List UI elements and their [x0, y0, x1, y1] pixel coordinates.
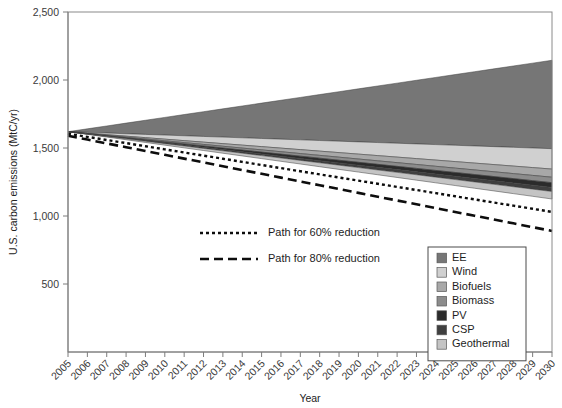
legend-label-pv: PV — [452, 309, 467, 321]
y-tick-label: 2,000 — [33, 74, 59, 86]
x-tick-label: 2005 — [48, 357, 73, 382]
y-tick-label: 1,000 — [33, 210, 59, 222]
x-tick-label: 2006 — [68, 357, 93, 382]
x-tick-label: 2013 — [203, 357, 228, 382]
chart-container: 5001,0001,5002,0002,500 2005200620072008… — [0, 0, 562, 408]
x-tick-label: 2011 — [165, 357, 190, 382]
x-tick-label: 2018 — [300, 357, 325, 382]
legend-label-ee: EE — [452, 251, 467, 263]
x-axis-title: Year — [299, 392, 321, 404]
x-tick-label: 2010 — [145, 357, 170, 382]
x-tick-label: 2020 — [339, 357, 364, 382]
legend-swatch-wind — [437, 268, 447, 278]
legend-label-csp: CSP — [452, 323, 475, 335]
emissions-wedge-chart: 5001,0001,5002,0002,500 2005200620072008… — [0, 0, 562, 408]
x-tick-label: 2017 — [281, 357, 306, 382]
y-axis-title: U.S. carbon emissions (MtC/yr) — [7, 109, 19, 255]
x-tick-label: 2022 — [378, 357, 403, 382]
path-legend-label: Path for 80% reduction — [268, 252, 380, 264]
x-tick-label: 2014 — [223, 357, 248, 382]
y-tick-label: 500 — [41, 278, 59, 290]
x-tick-label: 2021 — [358, 357, 383, 382]
path-legend-label: Path for 60% reduction — [268, 226, 380, 238]
x-tick-label: 2015 — [242, 357, 267, 382]
legend-label-geothermal: Geothermal — [452, 337, 509, 349]
legend-swatch-biomass — [437, 296, 447, 306]
legend-swatch-biofuels — [437, 282, 447, 292]
x-tick-label: 2007 — [87, 357, 112, 382]
legend-label-wind: Wind — [452, 265, 477, 277]
legend-label-biofuels: Biofuels — [452, 280, 492, 292]
x-tick-label: 2023 — [397, 357, 422, 382]
legend-label-biomass: Biomass — [452, 294, 495, 306]
legend-swatch-geothermal — [437, 340, 447, 350]
legend-swatch-ee — [437, 253, 447, 263]
series-legend: EEWindBiofuelsBiomassPVCSPGeothermal — [428, 247, 526, 361]
y-tick-label: 2,500 — [33, 6, 59, 18]
x-tick-label: 2009 — [126, 357, 151, 382]
y-tick-label: 1,500 — [33, 142, 59, 154]
legend-swatch-csp — [437, 325, 447, 335]
x-tick-label: 2012 — [184, 357, 209, 382]
x-tick-label: 2019 — [319, 357, 344, 382]
x-tick-label: 2008 — [107, 357, 132, 382]
legend-swatch-pv — [437, 311, 447, 321]
x-tick-label: 2016 — [261, 357, 286, 382]
y-axis: 5001,0001,5002,0002,500 — [33, 6, 68, 352]
x-tick-label: 2030 — [532, 357, 557, 382]
